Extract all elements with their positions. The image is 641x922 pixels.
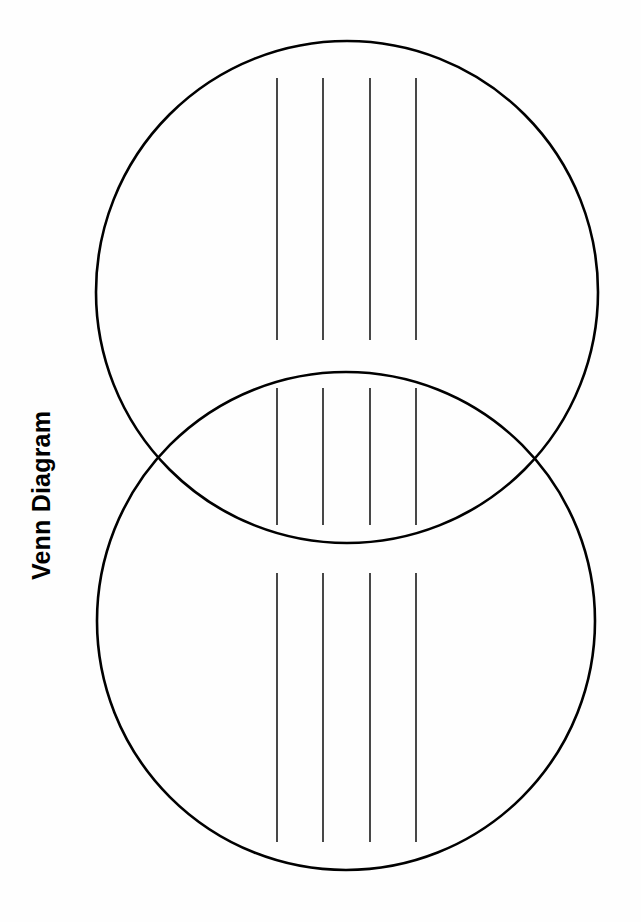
venn-diagram (0, 0, 641, 922)
writing-lines-top-region[interactable] (277, 78, 416, 340)
venn-circle-bottom[interactable] (97, 372, 595, 870)
writing-lines-bottom-region[interactable] (277, 573, 416, 842)
venn-circle-top[interactable] (96, 41, 598, 543)
worksheet-page: Venn Diagram (0, 0, 641, 922)
writing-lines-overlap-region[interactable] (277, 388, 416, 525)
venn-circles (96, 41, 598, 870)
